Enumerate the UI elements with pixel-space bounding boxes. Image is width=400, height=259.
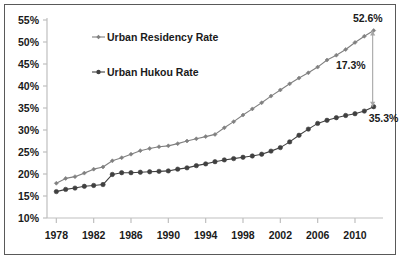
data-point-residency (185, 139, 189, 143)
data-point-hukou (231, 156, 235, 160)
chart-container: 55%50%45%40%35%30%25%20%15%10%1978198219… (0, 0, 400, 259)
data-point-residency (54, 181, 58, 185)
y-axis-tick-label: 50% (18, 36, 40, 48)
data-point-hukou (241, 155, 245, 159)
legend-marker-residency (96, 35, 100, 39)
data-point-hukou (138, 170, 142, 174)
annotation-gap: 17.3% (336, 59, 366, 71)
data-point-hukou (129, 170, 133, 174)
legend-label-hukou: Urban Hukou Rate (107, 66, 199, 78)
data-point-hukou (353, 112, 357, 116)
y-axis-tick-label: 25% (18, 146, 40, 158)
annotation-residency-end: 52.6% (353, 12, 383, 24)
x-axis-tick-label: 2010 (343, 229, 367, 241)
data-point-residency (194, 137, 198, 141)
data-point-hukou (259, 152, 263, 156)
data-point-hukou (101, 182, 105, 186)
data-point-hukou (54, 189, 58, 193)
y-axis-tick-label: 55% (18, 14, 40, 26)
x-axis-tick-label: 1982 (82, 229, 106, 241)
data-point-hukou (362, 109, 366, 113)
legend-marker-hukou (96, 70, 100, 74)
data-point-residency (92, 167, 96, 171)
x-axis-tick-label: 2006 (306, 229, 330, 241)
y-axis-tick-label: 10% (18, 212, 40, 224)
data-point-hukou (287, 140, 291, 144)
data-point-hukou (119, 170, 123, 174)
data-point-hukou (222, 158, 226, 162)
line-chart: 55%50%45%40%35%30%25%20%15%10%1978198219… (0, 0, 400, 259)
y-axis-tick-label: 40% (18, 80, 40, 92)
data-point-residency (120, 156, 124, 160)
data-point-residency (138, 149, 142, 153)
data-point-hukou (213, 159, 217, 163)
x-axis-tick-label: 1998 (231, 229, 255, 241)
data-point-residency (73, 175, 77, 179)
data-point-hukou (91, 183, 95, 187)
data-point-hukou (157, 169, 161, 173)
data-point-hukou (278, 145, 282, 149)
data-point-residency (64, 176, 68, 180)
data-point-residency (204, 135, 208, 139)
data-point-hukou (194, 163, 198, 167)
data-point-residency (129, 152, 133, 156)
data-point-hukou (185, 166, 189, 170)
data-point-hukou (203, 162, 207, 166)
data-point-hukou (297, 133, 301, 137)
data-point-residency (176, 142, 180, 146)
data-point-hukou (175, 167, 179, 171)
data-point-hukou (343, 113, 347, 117)
data-point-residency (157, 145, 161, 149)
data-point-hukou (82, 184, 86, 188)
y-axis-tick-label: 15% (18, 190, 40, 202)
data-point-hukou (73, 186, 77, 190)
data-point-hukou (315, 121, 319, 125)
data-point-hukou (325, 118, 329, 122)
legend-label-residency: Urban Residency Rate (107, 31, 219, 43)
data-point-hukou (250, 154, 254, 158)
annotation-hukou-end: 35.3% (369, 112, 399, 124)
data-point-hukou (269, 149, 273, 153)
x-axis-tick-label: 1994 (194, 229, 218, 241)
x-axis-tick-label: 1978 (45, 229, 69, 241)
data-point-hukou (334, 115, 338, 119)
y-axis-tick-label: 45% (18, 58, 40, 70)
y-axis-tick-label: 35% (18, 102, 40, 114)
data-point-residency (148, 146, 152, 150)
data-point-hukou (110, 172, 114, 176)
data-point-hukou (166, 169, 170, 173)
x-axis-tick-label: 2002 (269, 229, 293, 241)
data-point-residency (166, 144, 170, 148)
data-point-residency (82, 171, 86, 175)
data-point-hukou (63, 187, 67, 191)
y-axis-tick-label: 30% (18, 124, 40, 136)
x-axis-tick-label: 1986 (119, 229, 143, 241)
y-axis-tick-label: 20% (18, 168, 40, 180)
data-point-hukou (147, 170, 151, 174)
data-point-hukou (306, 127, 310, 131)
x-axis-tick-label: 1990 (157, 229, 181, 241)
